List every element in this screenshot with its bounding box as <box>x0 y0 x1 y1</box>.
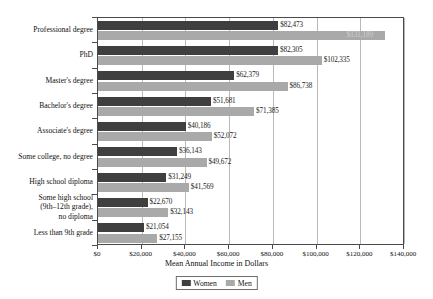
bar-value-label-men: $86,738 <box>290 82 313 91</box>
bar-value-label-women: $51,681 <box>213 97 236 106</box>
bar-value-label-women: $82,305 <box>280 46 303 55</box>
y-axis-tick <box>92 17 97 18</box>
bar-men[interactable] <box>98 31 385 40</box>
bar-women[interactable] <box>98 122 186 131</box>
category-label: Professional degree <box>33 25 93 34</box>
bar-group: $82,305$102,335 <box>98 43 403 68</box>
bar-men[interactable] <box>98 107 254 116</box>
bar-women[interactable] <box>98 147 177 156</box>
x-axis-tick <box>141 245 142 249</box>
legend-swatch-men-icon <box>226 280 235 286</box>
category-label: Some high school (9th–12th grade), no di… <box>39 193 93 221</box>
x-axis-title: Mean Annual Income in Dollars <box>0 259 433 268</box>
x-axis-tick <box>272 245 273 249</box>
category-label: Less than 9th grade <box>34 228 93 237</box>
bar-chart: $82,473$131,189$82,305$102,335$62,379$86… <box>0 0 433 299</box>
bar-value-label-men: $32,143 <box>170 208 193 217</box>
x-axis-tick <box>316 245 317 249</box>
x-axis-tick <box>184 245 185 249</box>
bar-group: $22,670$32,143 <box>98 195 403 220</box>
x-axis-tick-label: $120,000 <box>346 250 372 258</box>
category-label: High school diploma <box>29 177 93 186</box>
bar-value-label-men: $102,335 <box>324 56 350 65</box>
bar-value-label-men: $27,155 <box>159 234 182 243</box>
x-axis-tick <box>97 245 98 249</box>
x-axis-tick <box>359 245 360 249</box>
bar-value-label-women: $21,054 <box>146 223 169 232</box>
bar-group: $36,143$49,672 <box>98 145 403 170</box>
y-axis-tick <box>92 93 97 94</box>
bar-women[interactable] <box>98 97 211 106</box>
legend-label-men: Men <box>238 279 252 288</box>
bar-value-label-women: $62,379 <box>236 71 259 80</box>
x-axis-tick-label: $60,000 <box>217 250 240 258</box>
bar-men[interactable] <box>98 132 212 141</box>
bar-value-label-men: $131,189 <box>347 31 373 40</box>
x-axis-tick-label: $80,000 <box>260 250 283 258</box>
bar-women[interactable] <box>98 223 144 232</box>
y-axis-tick <box>92 169 97 170</box>
bar-men[interactable] <box>98 234 157 243</box>
bar-group: $21,054$27,155 <box>98 221 403 246</box>
bar-women[interactable] <box>98 71 234 80</box>
category-label: Master's degree <box>45 76 93 85</box>
x-axis-tick-label: $20,000 <box>129 250 152 258</box>
bar-group: $51,681$71,385 <box>98 94 403 119</box>
y-axis-tick <box>92 68 97 69</box>
bar-value-label-women: $31,249 <box>168 173 191 182</box>
bar-value-label-men: $71,385 <box>256 107 279 116</box>
bar-men[interactable] <box>98 56 322 65</box>
x-axis-tick-label: $0 <box>94 250 101 258</box>
legend-label-women: Women <box>193 279 216 288</box>
bar-group: $62,379$86,738 <box>98 69 403 94</box>
x-axis-tick <box>403 245 404 249</box>
x-axis-tick-label: $140,000 <box>390 250 416 258</box>
chart-legend: Women Men <box>175 276 257 290</box>
category-label: PhD <box>79 50 93 59</box>
y-axis-tick <box>92 42 97 43</box>
plot-area: $82,473$131,189$82,305$102,335$62,379$86… <box>97 17 404 245</box>
bar-value-label-women: $82,473 <box>280 21 303 30</box>
x-axis-tick-label: $40,000 <box>173 250 196 258</box>
gridline <box>404 18 405 244</box>
bar-group: $40,186$52,072 <box>98 119 403 144</box>
bar-women[interactable] <box>98 198 148 207</box>
bar-women[interactable] <box>98 21 278 30</box>
y-axis-tick <box>92 118 97 119</box>
y-axis-tick <box>92 144 97 145</box>
bar-men[interactable] <box>98 183 189 192</box>
y-axis-tick <box>92 220 97 221</box>
legend-swatch-women-icon <box>181 280 190 286</box>
bar-men[interactable] <box>98 82 288 91</box>
bar-men[interactable] <box>98 158 207 167</box>
bar-value-label-women: $36,143 <box>179 147 202 156</box>
legend-item-men[interactable]: Men <box>226 279 252 288</box>
bar-men[interactable] <box>98 208 168 217</box>
bar-value-label-men: $49,672 <box>209 158 232 167</box>
category-label: Bachelor's degree <box>39 101 93 110</box>
bar-women[interactable] <box>98 46 278 55</box>
x-axis-tick-label: $100,000 <box>302 250 328 258</box>
bar-group: $31,249$41,569 <box>98 170 403 195</box>
bar-value-label-women: $40,186 <box>188 122 211 131</box>
category-label: Some college, no degree <box>18 152 93 161</box>
bar-value-label-men: $52,072 <box>214 132 237 141</box>
bar-group: $82,473$131,189 <box>98 18 403 43</box>
category-label: Associate's degree <box>37 126 93 135</box>
x-axis-tick <box>228 245 229 249</box>
bar-women[interactable] <box>98 173 166 182</box>
bar-value-label-men: $41,569 <box>191 183 214 192</box>
bar-value-label-women: $22,670 <box>150 198 173 207</box>
legend-item-women[interactable]: Women <box>181 279 216 288</box>
